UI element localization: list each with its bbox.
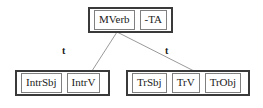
edge-label-transitive: t xyxy=(165,46,168,56)
node-mverb[interactable]: MVerb xyxy=(94,10,135,30)
node-trobj[interactable]: TrObj xyxy=(205,73,242,93)
diagram-canvas: t t MVerb -TA IntrSbj IntrV TrSbj TrV Tr… xyxy=(0,0,263,108)
node-ta-suffix[interactable]: -TA xyxy=(140,10,167,30)
edge-label-intransitive: t xyxy=(62,46,65,56)
transitive-frame: TrSbj TrV TrObj xyxy=(126,70,250,96)
node-trv[interactable]: TrV xyxy=(172,73,200,93)
node-intrv[interactable]: IntrV xyxy=(67,73,101,93)
node-intrsbj[interactable]: IntrSbj xyxy=(21,73,62,93)
node-trsbj[interactable]: TrSbj xyxy=(132,73,167,93)
intransitive-frame: IntrSbj IntrV xyxy=(15,70,110,96)
edge-to-transitive-line xyxy=(117,32,196,72)
edge-to-intransitive-line xyxy=(90,32,117,74)
main-verb-group: MVerb -TA xyxy=(88,7,173,33)
